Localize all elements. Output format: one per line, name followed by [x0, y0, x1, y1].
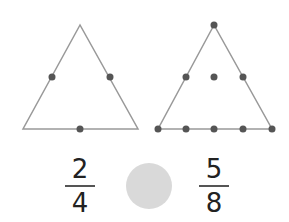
- triangle-diagram: [0, 0, 289, 222]
- fraction-right-denominator: 8: [194, 190, 234, 216]
- fraction-left-numerator: 2: [60, 156, 100, 182]
- right-triangle-dots: [155, 22, 276, 133]
- left-triangle: [23, 25, 138, 129]
- fraction-bar: [65, 185, 95, 187]
- fraction-left: 2 4: [60, 156, 100, 216]
- fraction-left-denominator: 4: [60, 190, 100, 216]
- left-triangle-dots: [49, 74, 114, 133]
- fraction-right: 5 8: [194, 156, 234, 216]
- fraction-bar: [199, 185, 229, 187]
- fraction-right-numerator: 5: [194, 156, 234, 182]
- comparison-circle[interactable]: [126, 163, 172, 209]
